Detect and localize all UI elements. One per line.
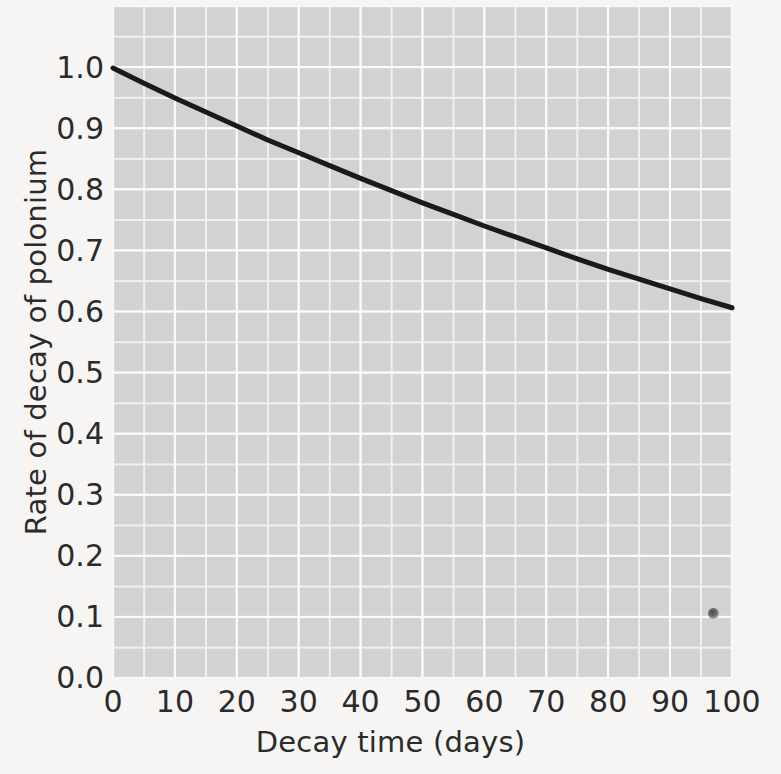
x-tick-label: 70 (527, 687, 565, 717)
x-tick-label: 80 (589, 687, 627, 717)
x-tick-label: 40 (342, 687, 380, 717)
decay-curve-line (113, 68, 732, 308)
x-axis-title: Decay time (days) (0, 725, 781, 759)
x-tick-label: 10 (156, 687, 194, 717)
x-tick-label: 100 (703, 687, 760, 717)
data-series-layer (113, 6, 732, 678)
x-tick-label: 20 (218, 687, 256, 717)
x-axis-tick-labels: 0102030405060708090100 (0, 687, 781, 727)
plot-area (113, 6, 732, 678)
x-tick-label: 0 (103, 687, 122, 717)
x-tick-label: 50 (403, 687, 441, 717)
x-tick-label: 90 (651, 687, 689, 717)
x-tick-label: 60 (465, 687, 503, 717)
chart-figure: 0.00.10.20.30.40.50.60.70.80.91.0 010203… (0, 0, 781, 774)
x-tick-label: 30 (280, 687, 318, 717)
y-axis-title: Rate of decay of polonium (19, 22, 53, 662)
